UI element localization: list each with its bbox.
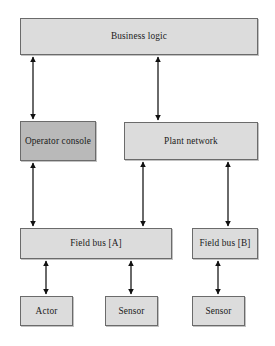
node-actor: Actor (20, 296, 73, 326)
node-field-bus-b: Field bus [B] (192, 228, 258, 259)
node-label-field-bus-a: Field bus [A] (68, 238, 124, 248)
node-plant-network: Plant network (124, 122, 258, 160)
node-field-bus-a: Field bus [A] (20, 228, 172, 259)
node-label-actor: Actor (34, 306, 60, 316)
node-label-sensor-b: Sensor (203, 306, 233, 316)
node-operator-console: Operator console (20, 121, 96, 161)
node-label-operator-console: Operator console (23, 136, 93, 146)
node-label-business-logic: Business logic (109, 31, 169, 41)
node-label-field-bus-b: Field bus [B] (197, 238, 252, 248)
node-sensor-b: Sensor (192, 296, 245, 326)
node-sensor-a: Sensor (105, 296, 158, 326)
architecture-diagram: Business logicOperator consolePlant netw… (0, 0, 275, 346)
node-business-logic: Business logic (20, 18, 258, 55)
node-label-sensor-a: Sensor (116, 306, 146, 316)
node-label-plant-network: Plant network (162, 136, 220, 146)
